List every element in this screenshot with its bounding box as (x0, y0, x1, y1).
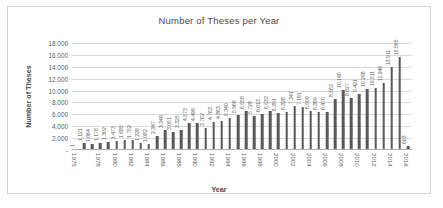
bar (188, 123, 191, 150)
bar (285, 112, 288, 150)
bar (342, 90, 345, 150)
plot-area: 2.0004.0006.0008.00010.00012.00014.00016… (72, 43, 412, 150)
x-axis-tick-label: 2004 (306, 153, 313, 167)
bar (334, 99, 337, 150)
bar-slot: 10.298 (363, 43, 371, 150)
x-axis-tick-label: 2002 (290, 153, 297, 167)
x-axis-tick-label: 2010 (354, 153, 361, 167)
bar (204, 128, 207, 150)
x-axis-tick-label: 1994 (225, 153, 232, 167)
bar (164, 130, 167, 150)
x-axis-tick-label: 1988 (176, 153, 183, 167)
bar (261, 114, 264, 150)
bar-slot: 5.728 (250, 43, 258, 150)
bar-value-label: 6.013 (255, 100, 261, 113)
bar-value-label: 9.421 (352, 79, 358, 92)
bar-value-label: 13.911 (385, 50, 391, 65)
bar-value-label: 6.328 (280, 98, 286, 111)
y-axis-origin-tick: - (66, 147, 68, 154)
bar-value-label: 3.348 (158, 115, 164, 128)
bar-value-label: 7.181 (296, 93, 302, 106)
x-axis-tick-label: 2006 (322, 153, 329, 167)
bar (237, 115, 240, 150)
x-axis-tick-label: 1998 (257, 153, 264, 167)
bar-slot: 3.051 (169, 43, 177, 150)
bar (253, 116, 256, 150)
bar (310, 111, 313, 150)
x-axis-tick-label: 1992 (209, 153, 216, 167)
y-axis-tick-label: 18.000 (48, 40, 68, 47)
x-axis-tick-label: 1975 (71, 153, 78, 167)
x-axis-tick-label: 2014 (387, 153, 394, 167)
bar-value-label: 6.532 (263, 96, 269, 109)
y-axis-title: Number of Theses (22, 43, 34, 150)
bar-value-label: 6.389 (312, 97, 318, 110)
bar (358, 94, 361, 150)
bar-value-label: 15.565 (393, 40, 399, 56)
y-axis-tick-label: 8.000 (52, 99, 68, 106)
bar (220, 121, 223, 150)
bar (156, 136, 159, 150)
bar-slot: 5.3401994 (226, 43, 234, 150)
bar (172, 132, 175, 150)
x-axis-tick-label: 1984 (144, 153, 151, 167)
bar-value-label: 4.573 (182, 108, 188, 121)
bar-value-label: 11.246 (377, 66, 383, 81)
bar (212, 122, 215, 150)
bar-slot: 8.563 (331, 43, 339, 150)
x-axis-tick-label: 1996 (241, 153, 248, 167)
bar (269, 111, 272, 150)
x-axis-tick-label: 2016 (403, 153, 410, 167)
x-axis-tick-label: 1980 (112, 153, 119, 167)
bar (390, 67, 393, 150)
bar (293, 106, 296, 150)
y-axis-tick-label: 14.000 (48, 63, 68, 70)
bar-slot: 2.347 (153, 43, 161, 150)
bar (366, 89, 369, 150)
bar-slot: 6032016 (404, 43, 412, 150)
bar-value-label: 4.863 (215, 106, 221, 119)
bar-value-label: 1.082 (142, 129, 148, 142)
bar-value-label: 1.302 (101, 128, 107, 141)
bar-value-label: 5.340 (223, 104, 229, 117)
bar-value-label: 6.558 (239, 96, 245, 109)
x-axis-tick-label: 1990 (192, 153, 199, 167)
bar (326, 112, 329, 150)
bar (350, 98, 353, 150)
bar-slot: 4.4991990 (193, 43, 201, 150)
x-axis-tick-label: 2000 (273, 153, 280, 167)
bar-value-label: 1 (69, 144, 75, 147)
bar-slot: 6.5581996 (242, 43, 250, 150)
bar-value-label: 10.511 (369, 70, 375, 85)
bar-value-label: 4.763 (207, 107, 213, 120)
bar-slot: 8.827 (347, 43, 355, 150)
bar-slot: 10.5112012 (372, 43, 380, 150)
bar-value-label: 4.499 (190, 109, 196, 122)
bar-slot: 4.863 (218, 43, 226, 150)
bar-slot: 10.1402008 (339, 43, 347, 150)
chart-title: Number of Theses per Year (8, 15, 430, 26)
bar (277, 113, 280, 150)
bar-slot: 3.3481986 (161, 43, 169, 150)
bar-value-label: 10.298 (360, 71, 366, 87)
bar-value-label: 1.685 (118, 125, 124, 138)
bar-value-label: 1.473 (110, 127, 116, 140)
bar (301, 107, 304, 150)
bar-value-label: 5.966 (231, 100, 237, 113)
bar-value-label: 8.563 (328, 84, 334, 97)
bar (382, 83, 385, 150)
bar-value-label: 1.752 (126, 125, 132, 138)
bar-value-label: 1.228 (134, 128, 140, 141)
axis-baseline (72, 149, 412, 150)
bar-value-label: 6.509 (304, 97, 310, 110)
x-axis-tick-label: 2012 (371, 153, 378, 167)
bar-value-label: 6.291 (271, 98, 277, 111)
bar (374, 88, 377, 150)
bar-value-label: 7.341 (288, 92, 294, 105)
y-axis-tick-label: 16.000 (48, 51, 68, 58)
bar-value-label: 6.470 (320, 97, 326, 110)
x-axis-tick-label: 1978 (95, 153, 102, 167)
y-axis-title-label: Number of Theses (24, 65, 33, 128)
y-axis-tick-label: 4.000 (52, 123, 68, 130)
bar-slot: 4.573 (185, 43, 193, 150)
